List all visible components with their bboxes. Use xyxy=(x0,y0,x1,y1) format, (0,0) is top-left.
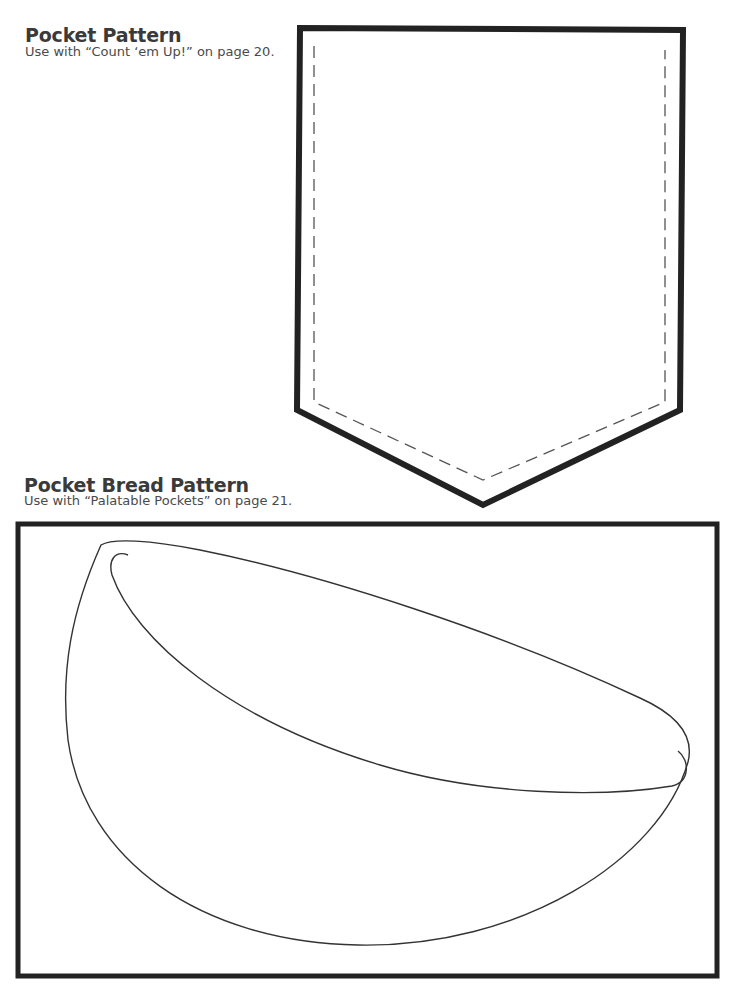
pocket-bread-pattern-shape xyxy=(0,0,736,985)
bread-frame xyxy=(18,524,717,976)
bread-outline xyxy=(66,541,690,945)
bread-pocket-opening xyxy=(111,554,686,793)
